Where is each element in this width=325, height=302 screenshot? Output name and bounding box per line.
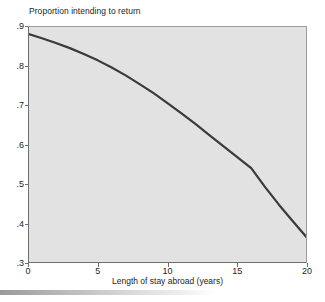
y-axis-title: Proportion intending to return xyxy=(29,6,141,16)
series-line-proportion-intending-to-return xyxy=(28,34,307,238)
y-tick-mark xyxy=(25,105,29,106)
y-tick-mark xyxy=(25,26,29,27)
data-line-chart xyxy=(28,26,307,263)
x-tick-label: 5 xyxy=(95,267,100,276)
x-tick-label: 20 xyxy=(302,267,312,276)
y-tick-label: .4 xyxy=(6,219,24,228)
y-tick-label: .7 xyxy=(6,101,24,110)
x-axis-title: Length of stay abroad (years) xyxy=(28,276,307,286)
y-tick-mark xyxy=(25,184,29,185)
y-tick-label: .9 xyxy=(6,22,24,31)
x-tick-label: 10 xyxy=(162,267,172,276)
y-tick-mark xyxy=(25,66,29,67)
plot-area: .3.4.5.6.7.8.9 05101520 xyxy=(28,26,307,263)
decorative-bottom-band xyxy=(0,290,215,295)
x-tick-label: 0 xyxy=(25,267,30,276)
y-tick-label: .8 xyxy=(6,61,24,70)
y-tick-mark xyxy=(25,224,29,225)
chart-figure: Proportion intending to return .3.4.5.6.… xyxy=(0,0,325,302)
y-tick-mark xyxy=(25,145,29,146)
y-tick-label: .3 xyxy=(6,259,24,268)
y-tick-label: .5 xyxy=(6,180,24,189)
x-tick-label: 15 xyxy=(232,267,242,276)
y-tick-label: .6 xyxy=(6,140,24,149)
